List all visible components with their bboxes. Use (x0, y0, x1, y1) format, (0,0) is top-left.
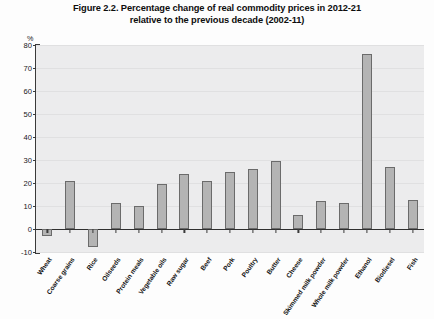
x-axis-label-slot: Ethanol (356, 255, 379, 317)
x-axis-tick (70, 229, 71, 233)
bar-slot (401, 45, 424, 252)
plot-area: -1001020304050607080 (36, 45, 424, 252)
x-axis-tick (47, 229, 48, 233)
bar[interactable] (134, 206, 144, 229)
bar-slot (219, 45, 242, 252)
bar-slot (36, 45, 59, 252)
x-axis-label-slot: Biodiesel (378, 255, 401, 317)
y-axis-tick (33, 252, 37, 253)
x-axis-tick (275, 229, 276, 233)
x-axis-label-slot: Pork (219, 255, 242, 317)
x-axis-tick (207, 229, 208, 233)
bar-slot (104, 45, 127, 252)
x-axis-tick (115, 229, 116, 233)
bar[interactable] (179, 174, 189, 229)
bar[interactable] (157, 184, 167, 229)
x-axis-tick (138, 229, 139, 233)
bar-slot (150, 45, 173, 252)
figure-title-line-2: relative to the previous decade (2002-11… (0, 15, 434, 27)
x-axis-label: Pork (222, 256, 236, 272)
y-axis-tick-label: 80 (24, 41, 32, 50)
y-axis-tick-label: 30 (24, 156, 32, 165)
x-axis-tick (229, 229, 230, 233)
figure-container: Figure 2.2. Percentage change of real co… (0, 0, 434, 319)
y-axis-tick-label: 40 (24, 133, 32, 142)
x-axis-label: Wheat (36, 256, 53, 276)
y-axis-tick-label: -10 (21, 248, 32, 257)
x-axis-label: Beef (199, 256, 213, 272)
bar-slot (196, 45, 219, 252)
y-axis-tick-label: 0 (28, 225, 32, 234)
y-axis-tick-label: 70 (24, 64, 32, 73)
x-axis-label: Ethanol (353, 256, 372, 280)
bar[interactable] (362, 54, 372, 229)
x-axis-label-slot: Whole milk powder (333, 255, 356, 317)
bar-slot (333, 45, 356, 252)
y-axis-tick-label: 50 (24, 110, 32, 119)
bar[interactable] (111, 203, 121, 229)
x-axis-label-slot: Coarse grains (59, 255, 82, 317)
figure-title-line-1: Figure 2.2. Percentage change of real co… (0, 3, 434, 15)
bar-slot (287, 45, 310, 252)
x-axis-label: Butter (265, 256, 282, 276)
bar[interactable] (225, 172, 235, 230)
bar[interactable] (385, 167, 395, 229)
bar-slot (264, 45, 287, 252)
bar-slot (310, 45, 333, 252)
bar-slot (59, 45, 82, 252)
bar[interactable] (408, 200, 418, 229)
x-axis-label-slot: Fish (401, 255, 424, 317)
bar-slot (82, 45, 105, 252)
figure-title: Figure 2.2. Percentage change of real co… (0, 3, 434, 26)
bar[interactable] (293, 215, 303, 229)
x-axis-tick (366, 229, 367, 233)
x-axis-label-slot: Raw sugar (173, 255, 196, 317)
bar[interactable] (271, 161, 281, 229)
y-axis-tick-label: 10 (24, 202, 32, 211)
x-axis-label: Cheese (285, 256, 304, 279)
bar[interactable] (316, 201, 326, 229)
x-axis-label-slot: Poultry (241, 255, 264, 317)
y-axis-tick-label: 20 (24, 179, 32, 188)
x-axis-label: Fish (405, 256, 418, 271)
bar-slot (241, 45, 264, 252)
x-axis-label-slot: Beef (196, 255, 219, 317)
x-axis-tick (389, 229, 390, 233)
x-axis-tick (161, 229, 162, 233)
y-axis-tick-label: 60 (24, 87, 32, 96)
x-axis-tick (184, 229, 185, 233)
bar[interactable] (248, 169, 258, 229)
x-axis-tick (321, 229, 322, 233)
bar[interactable] (339, 203, 349, 229)
x-axis-label: Poultry (240, 256, 259, 278)
bars-group (36, 45, 424, 252)
x-axis-label-slot: Rice (82, 255, 105, 317)
gridline (36, 252, 424, 253)
bar-slot (378, 45, 401, 252)
x-axis-tick (298, 229, 299, 233)
bar[interactable] (202, 181, 212, 229)
bar-slot (173, 45, 196, 252)
bar[interactable] (65, 181, 75, 229)
bar-slot (127, 45, 150, 252)
x-axis-tick (344, 229, 345, 233)
bar-slot (356, 45, 379, 252)
x-axis-tick (252, 229, 253, 233)
x-axis-label: Oilseeds (100, 256, 121, 282)
x-axis-tick (92, 229, 93, 233)
x-axis-label: Rice (85, 256, 99, 271)
x-axis-tick (412, 229, 413, 233)
x-axis-labels: WheatCoarse grainsRiceOilseedsProtein me… (36, 255, 424, 317)
